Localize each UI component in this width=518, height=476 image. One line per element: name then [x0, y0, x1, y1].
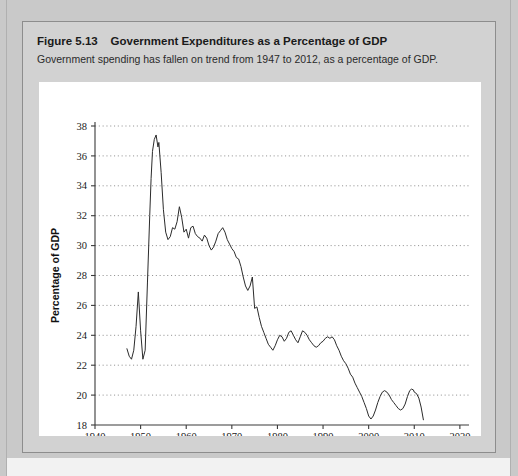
y-axis-title: Percentage of GDP — [49, 228, 61, 323]
figure-title-text: Government Expenditures as a Percentage … — [111, 35, 388, 47]
figure-subtitle: Government spending has fallen on trend … — [37, 52, 485, 66]
x-axis-ticks-group: 194019501960197019801990200020102020 — [85, 425, 471, 436]
x-tick-label-1970: 1970 — [221, 431, 242, 436]
x-tick-label-1990: 1990 — [313, 431, 334, 436]
y-tick-label-30: 30 — [77, 240, 88, 251]
figure-caption: Figure 5.13 Government Expenditures as a… — [37, 34, 485, 66]
page-bottom-margin — [7, 458, 510, 476]
y-tick-label-26: 26 — [77, 300, 88, 311]
y-tick-label-18: 18 — [77, 420, 88, 431]
x-tick-label-1980: 1980 — [267, 431, 288, 436]
x-tick-label-2000: 2000 — [358, 431, 379, 436]
y-tick-label-38: 38 — [77, 121, 88, 132]
y-tick-label-36: 36 — [77, 151, 88, 162]
page-background: Figure 5.13 Government Expenditures as a… — [0, 0, 518, 476]
gridlines-group — [95, 126, 469, 395]
y-tick-label-28: 28 — [77, 270, 88, 281]
figure-title-row: Figure 5.13 Government Expenditures as a… — [37, 34, 485, 49]
y-tick-label-20: 20 — [77, 390, 88, 401]
page-gutter-line-right — [510, 0, 511, 476]
chart-plot-panel: 1820222426283032343638 19401950196019701… — [39, 82, 481, 436]
x-tick-label-1950: 1950 — [130, 431, 151, 436]
figure-inner: Figure 5.13 Government Expenditures as a… — [23, 22, 495, 452]
y-axis-ticks-group: 1820222426283032343638 — [77, 121, 96, 431]
x-tick-label-1940: 1940 — [85, 431, 106, 436]
page-gutter-line-left — [6, 0, 7, 476]
y-tick-label-34: 34 — [77, 180, 88, 191]
figure-card: Figure 5.13 Government Expenditures as a… — [22, 21, 496, 453]
x-tick-label-2020: 2020 — [449, 431, 470, 436]
figure-number-label: Figure 5.13 — [37, 35, 98, 47]
y-tick-label-22: 22 — [77, 360, 88, 371]
x-tick-label-1960: 1960 — [176, 431, 197, 436]
line-chart: 1820222426283032343638 19401950196019701… — [39, 82, 481, 436]
y-tick-label-32: 32 — [77, 210, 88, 221]
series-line-government-expenditures — [127, 135, 423, 420]
x-tick-label-2010: 2010 — [404, 431, 425, 436]
y-tick-label-24: 24 — [77, 330, 88, 341]
